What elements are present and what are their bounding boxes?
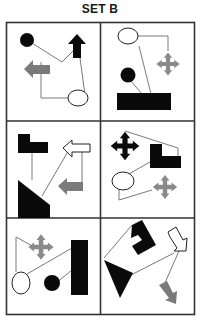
- white-diagonal-arrow-icon: [168, 227, 187, 251]
- black-tall-rectangle-icon: [71, 240, 88, 295]
- black-l-shape-rotated-icon: [131, 220, 156, 255]
- cell-row1-col1: [20, 33, 88, 106]
- gray-left-arrow-icon: [58, 178, 83, 195]
- gray-cross-star-icon: [28, 234, 53, 259]
- black-triangle-icon: [18, 180, 50, 218]
- cell-row1-col2: [117, 28, 180, 110]
- gray-cross-star-icon: [156, 52, 179, 75]
- black-l-shape-icon: [18, 134, 48, 153]
- white-ellipse-icon: [112, 172, 134, 190]
- white-ellipse-icon: [68, 90, 88, 106]
- black-circle-icon: [44, 275, 60, 291]
- cell-row2-col1: [18, 134, 90, 218]
- black-circle-icon: [20, 33, 34, 47]
- black-triangle-icon: [104, 260, 133, 298]
- gray-cross-star-icon: [153, 175, 177, 199]
- cell-row3-col1: [12, 234, 88, 295]
- black-rectangle-icon: [117, 93, 171, 110]
- gray-diagonal-arrow-icon: [159, 281, 177, 304]
- white-ellipse-icon: [12, 272, 30, 294]
- gray-left-arrow-icon: [24, 60, 50, 78]
- black-circle-icon: [121, 68, 136, 83]
- white-left-arrow-icon: [63, 140, 90, 157]
- white-ellipse-icon: [118, 28, 138, 44]
- black-up-arrow-icon: [68, 34, 86, 58]
- cell-row3-col2: [104, 220, 187, 304]
- black-cross-star-icon: [111, 132, 140, 161]
- puzzle-grid: [0, 0, 200, 320]
- cell-row2-col2: [111, 131, 181, 200]
